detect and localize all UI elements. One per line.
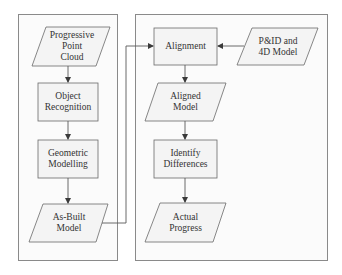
object-recognition-label: Object Recognition	[45, 91, 91, 113]
pid-4d-model-node: P&ID and 4D Model	[244, 28, 312, 65]
alignment-node: Alignment	[154, 28, 217, 65]
identify-differences-label: Identify Differences	[163, 148, 207, 170]
progressive-point-cloud-node: Progressive Point Cloud	[36, 27, 108, 66]
actual-progress-label: Actual Progress	[169, 212, 202, 234]
as-built-model-label: As-Built Model	[53, 212, 86, 234]
as-built-model-node: As-Built Model	[36, 204, 102, 242]
object-recognition-node: Object Recognition	[38, 83, 98, 121]
geometric-modelling-node: Geometric Modelling	[38, 140, 98, 178]
identify-differences-node: Identify Differences	[154, 140, 217, 178]
progressive-point-cloud-label: Progressive Point Cloud	[50, 30, 94, 63]
pid-4d-model-label: P&ID and 4D Model	[259, 36, 298, 58]
alignment-label: Alignment	[165, 41, 206, 52]
aligned-model-node: Aligned Model	[152, 83, 219, 121]
actual-progress-node: Actual Progress	[152, 203, 219, 242]
edge-asbuilt-to-alignment	[102, 46, 153, 223]
aligned-model-label: Aligned Model	[170, 91, 201, 113]
geometric-modelling-label: Geometric Modelling	[48, 148, 88, 170]
